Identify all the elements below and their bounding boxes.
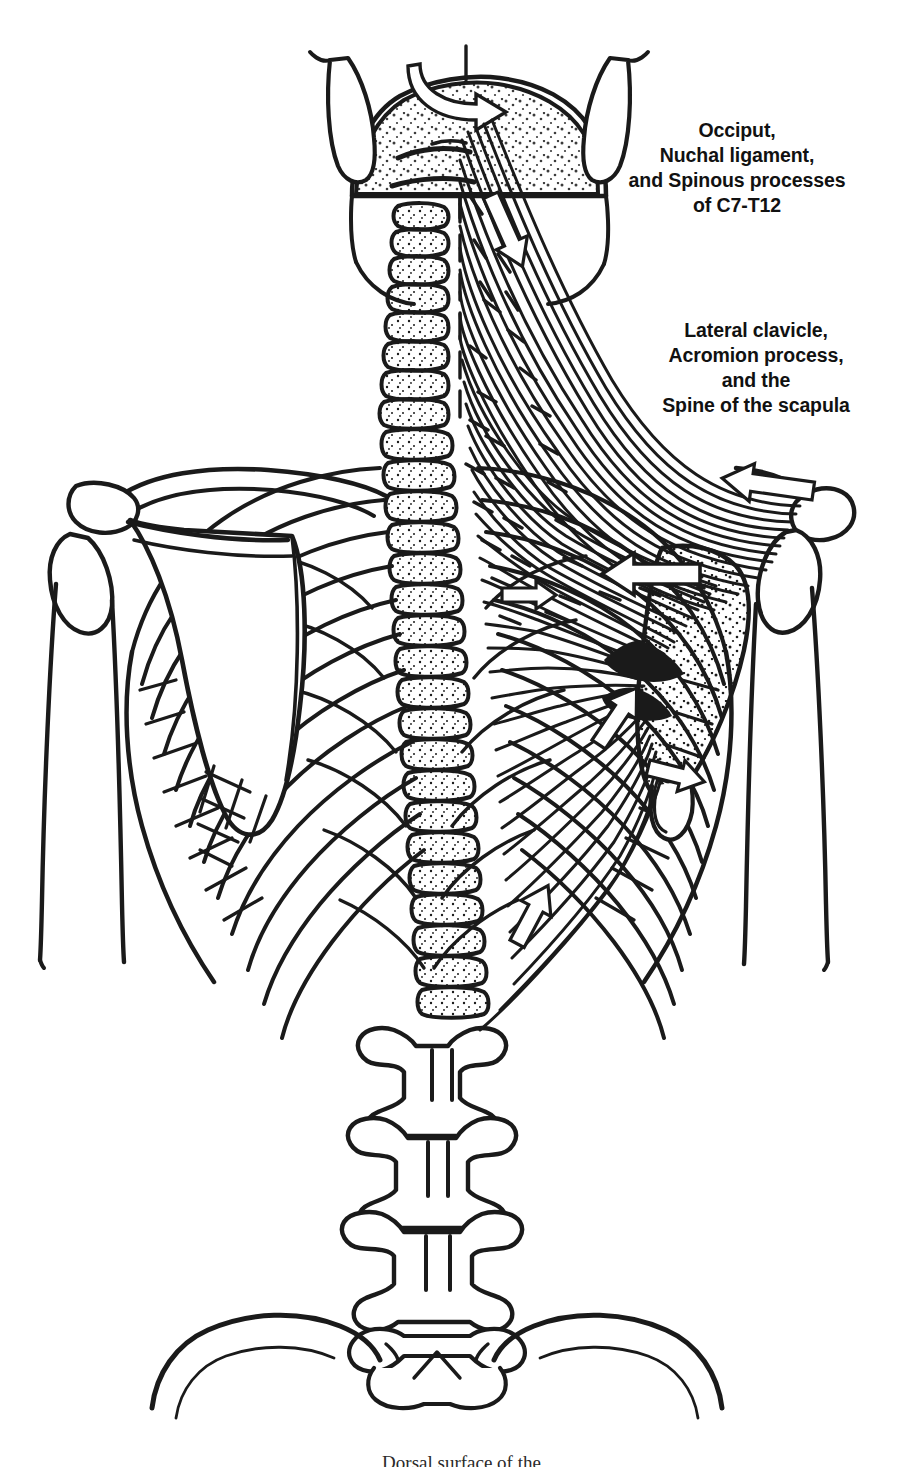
label-trapezius-origin: Occiput, Nuchal ligament, and Spinous pr… [562,118,912,218]
anatomical-illustration [0,0,923,1467]
sacrum [349,1329,525,1408]
trapezius-diagram-svg [0,0,923,1467]
figure-caption: Dorsal surface of the [0,1452,923,1467]
label-trapezius-insertion: Lateral clavicle, Acromion process, and … [600,318,912,418]
